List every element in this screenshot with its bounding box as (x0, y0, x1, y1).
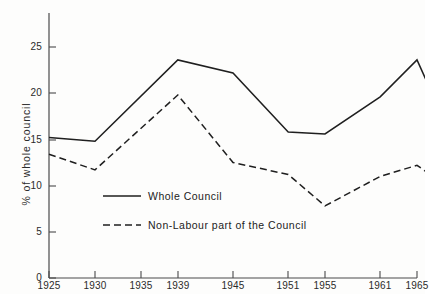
x-tick-label-1951: 1951 (271, 280, 305, 291)
x-tick-label-1945: 1945 (216, 280, 250, 291)
x-tick-label-1935: 1935 (124, 280, 158, 291)
y-tick-label-25: 25 (20, 41, 42, 52)
series-line-non-labour (49, 95, 425, 206)
y-axis-title: % of whole council (20, 84, 32, 224)
legend-label-whole-council: Whole Council (148, 190, 222, 202)
x-tick-label-1925: 1925 (32, 280, 66, 291)
axis-lines (49, 13, 417, 278)
x-tick-marks (49, 271, 417, 278)
x-tick-label-1961: 1961 (363, 280, 397, 291)
y-tick-marks (49, 47, 56, 278)
y-tick-label-5: 5 (20, 226, 42, 237)
legend-swatches (103, 196, 141, 225)
x-tick-label-1930: 1930 (78, 280, 112, 291)
legend-label-non-labour: Non-Labour part of the Council (148, 219, 307, 231)
x-tick-label-1965: 1965 (400, 280, 433, 291)
series-line-whole-council (49, 60, 425, 141)
x-tick-label-1939: 1939 (161, 280, 195, 291)
x-tick-label-1955: 1955 (308, 280, 342, 291)
